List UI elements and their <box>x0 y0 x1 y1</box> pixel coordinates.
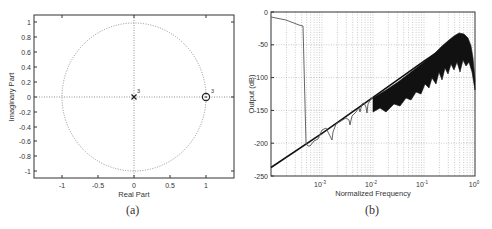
svg-text:0: 0 <box>132 182 136 189</box>
y-axis-label: Output (dB) <box>247 74 256 113</box>
x-axis-label: Real Part <box>118 190 150 199</box>
pole-zero-chart: 1 0.8 0.6 0.4 0.2 0 -0.2 -0.4 -0.6 -0.8 … <box>0 0 246 229</box>
svg-text:-1: -1 <box>25 168 31 175</box>
y-tick-labels: 0 -50 -100 -150 -200 -250 <box>254 9 268 180</box>
caption-a: (a) <box>126 203 139 218</box>
zero-marker-center <box>205 96 207 98</box>
svg-text:0.8: 0.8 <box>21 34 31 41</box>
svg-text:0: 0 <box>264 9 268 16</box>
svg-text:-0.6: -0.6 <box>19 138 31 145</box>
svg-text:0: 0 <box>27 94 31 101</box>
grid <box>271 12 475 176</box>
svg-text:-0.4: -0.4 <box>19 124 31 131</box>
x-tick-labels: 10-3 10-2 10-1 100 <box>314 180 480 188</box>
pole-multiplicity: 3 <box>137 88 140 94</box>
svg-text:-200: -200 <box>254 140 268 147</box>
theoretical-line <box>271 45 448 168</box>
output-trace <box>271 17 373 146</box>
svg-text:-0.5: -0.5 <box>92 182 104 189</box>
svg-text:1: 1 <box>27 19 31 26</box>
svg-text:10-2: 10-2 <box>365 180 377 188</box>
x-axis-label: Normalized Frequency <box>335 189 411 198</box>
svg-text:-0.2: -0.2 <box>19 109 31 116</box>
svg-text:0.5: 0.5 <box>165 182 175 189</box>
svg-text:-150: -150 <box>254 107 268 114</box>
frequency-response-panel: 0 -50 -100 -150 -200 -250 10-3 10-2 10-1… <box>246 0 492 229</box>
frequency-response-chart: 0 -50 -100 -150 -200 -250 10-3 10-2 10-1… <box>246 0 492 229</box>
svg-text:-0.8: -0.8 <box>19 153 31 160</box>
caption-b: (b) <box>365 203 379 218</box>
svg-text:1: 1 <box>204 182 208 189</box>
svg-text:0.4: 0.4 <box>21 64 31 71</box>
svg-text:-100: -100 <box>254 74 268 81</box>
svg-text:-50: -50 <box>258 41 268 48</box>
svg-text:-250: -250 <box>254 173 268 180</box>
svg-text:0.2: 0.2 <box>21 79 31 86</box>
svg-text:-1: -1 <box>59 182 65 189</box>
x-tick-labels: -1 -0.5 0 0.5 1 <box>59 182 208 189</box>
y-axis-label: Imaginary Part <box>7 72 16 122</box>
svg-text:100: 100 <box>469 180 480 188</box>
zero-multiplicity: 3 <box>211 88 214 94</box>
svg-text:0.6: 0.6 <box>21 49 31 56</box>
y-tick-labels: 1 0.8 0.6 0.4 0.2 0 -0.2 -0.4 -0.6 -0.8 … <box>19 19 31 175</box>
svg-text:10-3: 10-3 <box>314 180 326 188</box>
svg-text:10-1: 10-1 <box>416 180 428 188</box>
pole-zero-panel: 1 0.8 0.6 0.4 0.2 0 -0.2 -0.4 -0.6 -0.8 … <box>0 0 246 229</box>
plot-frame <box>271 12 475 176</box>
